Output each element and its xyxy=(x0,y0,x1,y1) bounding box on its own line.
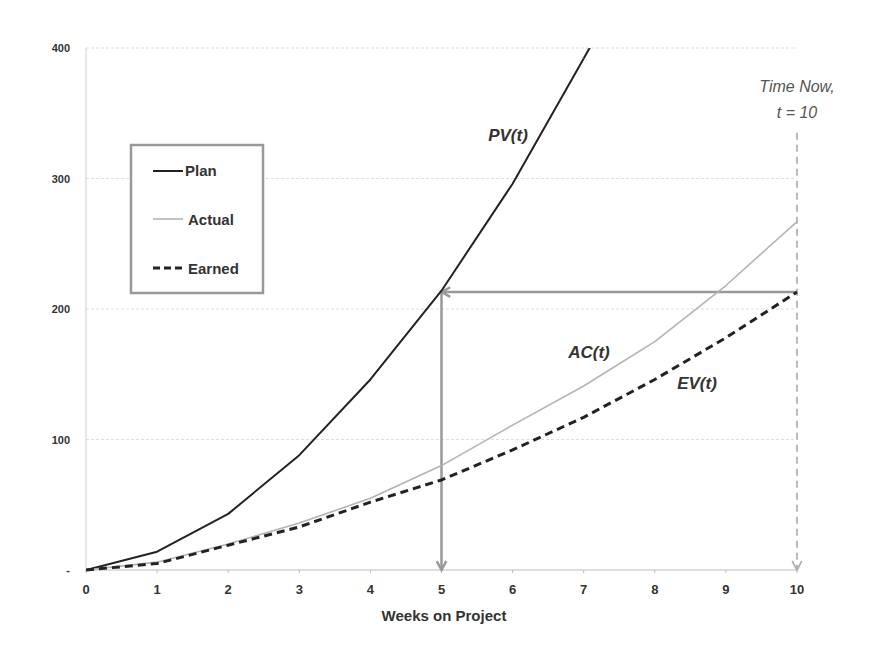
x-tick-label: 9 xyxy=(722,582,729,597)
legend: Plan Actual Earned xyxy=(131,145,263,293)
x-tick-label: 10 xyxy=(790,582,804,597)
x-tick-label: 5 xyxy=(438,582,445,597)
x-tick-label: 4 xyxy=(367,582,375,597)
x-tick-label: 8 xyxy=(651,582,658,597)
time-now-label: Time Now, xyxy=(759,78,834,95)
x-tick-label: 1 xyxy=(153,582,160,597)
series-line-plan-extension xyxy=(584,21,605,59)
x-tick-label: 7 xyxy=(580,582,587,597)
ev-label: EV(t) xyxy=(677,374,717,393)
y-tick-label: 400 xyxy=(52,42,70,54)
y-tick-label: 300 xyxy=(52,173,70,185)
x-axis-ticks: 012345678910 xyxy=(82,570,804,597)
time-now-value: t = 10 xyxy=(777,104,818,121)
y-tick-label: 100 xyxy=(52,434,70,446)
pv-label: PV(t) xyxy=(488,126,528,145)
x-tick-label: 0 xyxy=(82,582,89,597)
legend-label-plan: Plan xyxy=(185,162,217,179)
ac-label: AC(t) xyxy=(567,343,610,362)
y-tick-label: 200 xyxy=(52,303,70,315)
arrows xyxy=(437,133,802,570)
x-tick-label: 2 xyxy=(225,582,232,597)
x-axis-title: Weeks on Project xyxy=(382,607,507,624)
x-tick-label: 3 xyxy=(296,582,303,597)
legend-label-earned: Earned xyxy=(188,260,239,277)
y-tick-label: - xyxy=(66,564,70,576)
x-tick-label: 6 xyxy=(509,582,516,597)
earned-value-chart: -100200300400 012345678910 PV(t) AC(t) E… xyxy=(0,0,869,659)
y-axis-ticks: -100200300400 xyxy=(52,42,71,576)
legend-label-actual: Actual xyxy=(188,211,234,228)
